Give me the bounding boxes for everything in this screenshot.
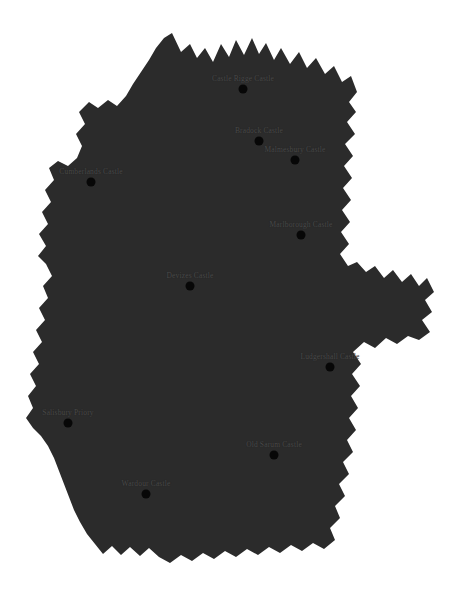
map-canvas: Castle Rigge CastleBradock CastleMalmesb… xyxy=(0,0,465,607)
location-pin-icon xyxy=(142,490,151,499)
site-label: Wardour Castle xyxy=(122,480,171,488)
site-label: Bradock Castle xyxy=(235,127,283,135)
site-label: Devizes Castle xyxy=(167,272,214,280)
location-pin-icon xyxy=(87,178,96,187)
location-pin-icon xyxy=(291,156,300,165)
location-pin-icon xyxy=(239,85,248,94)
site-label: Malmesbury Castle xyxy=(264,146,325,154)
location-pin-icon xyxy=(64,419,73,428)
location-pin-icon xyxy=(270,451,279,460)
site-marker-layer: Castle Rigge CastleBradock CastleMalmesb… xyxy=(0,0,465,607)
site-label: Marlborough Castle xyxy=(270,221,333,229)
site-label: Cumberlands Castle xyxy=(59,168,122,176)
location-pin-icon xyxy=(186,282,195,291)
location-pin-icon xyxy=(255,137,264,146)
location-pin-icon xyxy=(297,231,306,240)
site-label: Ludgershall Castle xyxy=(300,353,359,361)
site-label: Castle Rigge Castle xyxy=(212,75,274,83)
location-pin-icon xyxy=(326,363,335,372)
site-label: Old Sarum Castle xyxy=(246,441,302,449)
site-label: Salisbury Priory xyxy=(42,409,93,417)
